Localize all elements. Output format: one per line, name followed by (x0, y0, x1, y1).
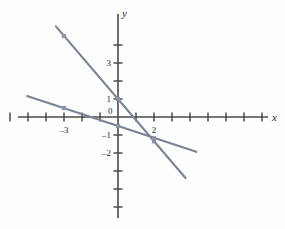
y-tick-label: 1 (107, 94, 112, 104)
coordinate-plane: 2–313–1–2 x y 0 (0, 0, 285, 229)
plotted-lines (27, 26, 196, 178)
graph-figure: 2–313–1–2 x y 0 (0, 0, 285, 229)
x-tick-label: 2 (152, 125, 157, 135)
y-tick-label: 3 (107, 58, 112, 68)
line-shallow-line (27, 96, 196, 152)
origin-label: 0 (108, 106, 113, 116)
y-tick-label: –2 (101, 148, 111, 158)
x-axis-label: x (271, 111, 277, 123)
point-marker (152, 136, 156, 140)
y-axis-label: y (121, 7, 127, 19)
point-marker (116, 124, 120, 128)
axis-lines (18, 14, 268, 218)
x-tick-label: –3 (59, 125, 70, 135)
line-steep-line (56, 26, 186, 178)
point-marker (62, 34, 66, 38)
point-marker (62, 106, 66, 110)
y-tick-label: –1 (101, 130, 111, 140)
point-marker (116, 97, 120, 101)
